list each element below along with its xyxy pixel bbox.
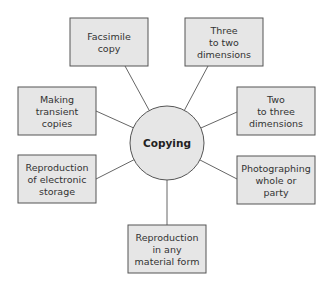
copying-diagram: FacsimilecopyThreeto twodimensionsMaking…	[0, 0, 333, 284]
node-label-line: transient	[36, 106, 79, 117]
connector-photographing	[200, 160, 237, 179]
connector-electronic	[96, 160, 134, 179]
node-label-line: copies	[42, 118, 73, 129]
node-label-line: of electronic	[28, 174, 87, 185]
node-electronic: Reproductionof electronicstorage	[18, 155, 96, 203]
node-label-line: to two	[209, 37, 239, 48]
node-label-line: Photographing	[241, 163, 311, 174]
node-label-line: dimensions	[197, 49, 251, 60]
node-label-line: Facsimile	[87, 31, 131, 42]
node-label-line: copy	[98, 43, 121, 54]
node-facsimile: Facsimilecopy	[70, 18, 148, 66]
node-material: Reproductionin anymaterial form	[128, 225, 206, 273]
connector-facsimile	[125, 66, 149, 111]
node-label-line: party	[263, 187, 288, 198]
node-label-line: dimensions	[249, 118, 303, 129]
node-label-line: in any	[152, 244, 182, 255]
node-label-line: Three	[209, 25, 237, 36]
node-label-line: Reproduction	[25, 162, 88, 173]
node-transient: Makingtransientcopies	[18, 87, 96, 135]
node-two-to-three: Twoto threedimensions	[237, 87, 315, 135]
node-label-line: Two	[266, 94, 285, 105]
hub-node: Copying	[130, 106, 204, 180]
node-label-line: whole or	[256, 175, 297, 186]
node-photographing: Photographingwhole orparty	[237, 156, 315, 204]
node-label-line: Making	[40, 94, 74, 105]
node-label-line: Reproduction	[135, 232, 198, 243]
node-label-line: storage	[39, 186, 75, 197]
node-three-to-two: Threeto twodimensions	[185, 18, 263, 66]
hub-label: Copying	[143, 137, 191, 149]
connector-two-to-three	[201, 112, 237, 128]
node-label-line: to three	[257, 106, 295, 117]
node-label-line: material form	[135, 256, 200, 267]
connector-transient	[96, 111, 133, 128]
connector-three-to-two	[184, 66, 208, 110]
